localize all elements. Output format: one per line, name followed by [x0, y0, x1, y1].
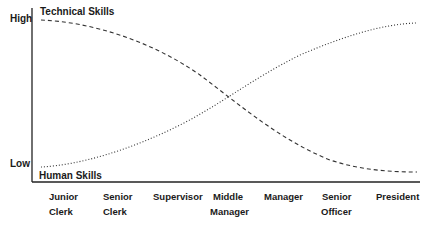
- technical-skills-label: Technical Skills: [40, 6, 115, 17]
- y-label-high: High: [10, 13, 32, 24]
- skills-chart: High Low Technical Skills Human Skills J…: [0, 0, 429, 226]
- x-label-middle-manager-2: Manager: [210, 206, 249, 217]
- x-category-labels: Junior Clerk Senior Clerk Supervisor Mid…: [49, 191, 420, 217]
- x-label-senior-clerk: Senior: [103, 191, 133, 202]
- x-label-senior-officer: Senior: [322, 191, 352, 202]
- y-label-low: Low: [10, 158, 30, 169]
- x-label-supervisor: Supervisor: [153, 191, 203, 202]
- x-label-junior-clerk: Junior: [49, 191, 78, 202]
- technical-skills-curve: [41, 20, 417, 172]
- x-label-manager: Manager: [264, 191, 303, 202]
- x-label-senior-officer-2: Officer: [321, 206, 352, 217]
- human-skills-curve: [41, 23, 417, 167]
- human-skills-label: Human Skills: [39, 170, 102, 181]
- x-label-middle-manager: Middle: [213, 191, 243, 202]
- x-label-junior-clerk-2: Clerk: [49, 206, 73, 217]
- x-label-senior-clerk-2: Clerk: [103, 206, 127, 217]
- x-label-president: President: [376, 191, 420, 202]
